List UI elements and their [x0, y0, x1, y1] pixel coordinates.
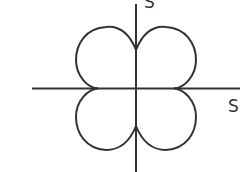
diagram-canvas: [0, 0, 251, 172]
lobe-upper-right: [136, 27, 196, 89]
lobe-lower-left: [76, 89, 136, 151]
vertical-axis-label: S: [144, 0, 155, 11]
lobe-lower-right: [136, 89, 196, 151]
horizontal-axis-label: S: [228, 98, 239, 115]
lobe-upper-left: [76, 27, 136, 89]
